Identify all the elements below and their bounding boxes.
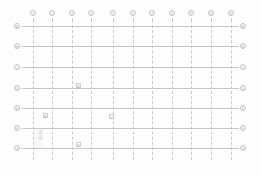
column-grid-bubble-2[interactable]: 2 — [49, 10, 55, 16]
column-grid-bubble-3[interactable]: 3 — [69, 10, 75, 16]
row-grid-bubble-right-D[interactable]: D — [240, 85, 246, 91]
column-grid-bubble-1[interactable]: 1 — [30, 10, 36, 16]
row-bubble-leader-right-F — [238, 128, 239, 129]
column-bubble-leader-2 — [52, 18, 53, 20]
column-gridline-4 — [91, 20, 92, 160]
row-bubble-leader-right-G — [238, 148, 239, 149]
row-grid-bubble-right-F[interactable]: F — [240, 125, 246, 131]
column-grid-bubble-11[interactable]: 11 — [228, 10, 234, 16]
column-bubble-leader-4 — [91, 18, 92, 20]
column-gridline-11 — [231, 20, 232, 160]
row-gridline-G — [24, 148, 238, 149]
column-grid-bubble-5[interactable]: 5 — [110, 10, 116, 16]
row-grid-bubble-left-G[interactable]: G — [14, 145, 20, 151]
row-bubble-leader-right-E — [238, 108, 239, 109]
row-gridline-F — [24, 128, 238, 129]
row-gridline-B — [24, 46, 238, 47]
row-bubble-leader-left-F — [21, 128, 24, 129]
drawing-canvas: 1234567891011 AABBCCDDEEFFGG PBCS NOTE — [0, 0, 262, 177]
column-gridline-8 — [172, 20, 173, 160]
column-gridline-2 — [52, 20, 53, 160]
row-grid-bubble-left-F[interactable]: F — [14, 125, 20, 131]
marker-s[interactable]: S — [77, 143, 80, 148]
column-grid-bubble-8[interactable]: 8 — [169, 10, 175, 16]
marker-b[interactable]: B — [44, 114, 47, 119]
column-grid-bubble-4[interactable]: 4 — [88, 10, 94, 16]
column-gridline-5 — [113, 20, 114, 160]
column-bubble-leader-7 — [152, 18, 153, 20]
row-grid-bubble-left-C[interactable]: C — [14, 64, 20, 70]
column-bubble-leader-6 — [133, 18, 134, 20]
row-bubble-leader-left-E — [21, 108, 24, 109]
row-grid-bubble-right-C[interactable]: C — [240, 64, 246, 70]
row-grid-bubble-right-B[interactable]: B — [240, 43, 246, 49]
column-grid-bubble-7[interactable]: 7 — [149, 10, 155, 16]
column-gridline-10 — [211, 20, 212, 160]
marker-p[interactable]: P — [77, 84, 80, 89]
row-gridline-E — [24, 108, 238, 109]
row-bubble-leader-left-B — [21, 46, 24, 47]
column-grid-bubble-10[interactable]: 10 — [208, 10, 214, 16]
row-grid-bubble-left-D[interactable]: D — [14, 85, 20, 91]
column-bubble-leader-11 — [231, 18, 232, 20]
row-bubble-leader-right-C — [238, 67, 239, 68]
row-gridline-C — [24, 67, 238, 68]
row-grid-bubble-right-A[interactable]: A — [240, 23, 246, 29]
row-grid-bubble-left-B[interactable]: B — [14, 43, 20, 49]
row-bubble-leader-right-D — [238, 88, 239, 89]
row-bubble-leader-left-A — [21, 26, 24, 27]
row-gridline-D — [24, 88, 238, 89]
row-bubble-leader-right-A — [238, 26, 239, 27]
column-bubble-leader-9 — [191, 18, 192, 20]
row-gridline-A — [24, 26, 238, 27]
column-gridline-3 — [72, 20, 73, 160]
column-gridline-7 — [152, 20, 153, 160]
row-bubble-leader-left-D — [21, 88, 24, 89]
column-gridline-9 — [191, 20, 192, 160]
column-bubble-leader-5 — [113, 18, 114, 20]
note-left-column: NOTE — [38, 130, 42, 140]
column-bubble-leader-1 — [33, 18, 34, 20]
row-bubble-leader-left-G — [21, 148, 24, 149]
marker-c[interactable]: C — [110, 115, 113, 120]
row-bubble-leader-right-B — [238, 46, 239, 47]
column-bubble-leader-10 — [211, 18, 212, 20]
row-grid-bubble-left-E[interactable]: E — [14, 105, 20, 111]
row-grid-bubble-right-G[interactable]: G — [240, 145, 246, 151]
column-gridline-6 — [133, 20, 134, 160]
column-grid-bubble-6[interactable]: 6 — [130, 10, 136, 16]
row-grid-bubble-right-E[interactable]: E — [240, 105, 246, 111]
row-bubble-leader-left-C — [21, 67, 24, 68]
column-bubble-leader-3 — [72, 18, 73, 20]
column-bubble-leader-8 — [172, 18, 173, 20]
column-grid-bubble-9[interactable]: 9 — [188, 10, 194, 16]
row-grid-bubble-left-A[interactable]: A — [14, 23, 20, 29]
